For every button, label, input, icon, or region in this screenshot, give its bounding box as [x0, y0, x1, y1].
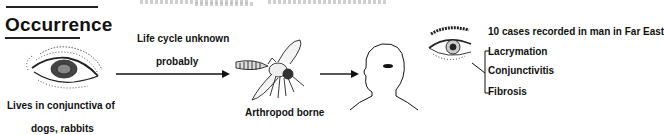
symptom-item: Fibrosis [488, 86, 527, 97]
clipped-previous-heading [0, 0, 663, 8]
section-title-underline [5, 37, 80, 39]
symptom-item: Conjunctivitis [488, 65, 554, 76]
fly-icon [234, 38, 314, 103]
reservoir-caption-line1: Lives in conjunctiva of [7, 100, 115, 111]
symptom-item: Lacrymation [488, 46, 547, 57]
arrow-right-icon [116, 69, 231, 79]
human-head-icon [346, 40, 426, 112]
vector-label: Arthropod borne [245, 107, 324, 118]
section-title: Occurrence [5, 14, 113, 36]
clipped-text-fragment [268, 0, 388, 4]
clipped-heading-underline [6, 6, 98, 8]
cases-text: 10 cases recorded in man in Far East [488, 26, 664, 37]
transmission-label-line1: Life cycle unknown [137, 33, 229, 44]
transmission-label-line2: probably [156, 56, 198, 67]
animal-eye-icon [18, 40, 113, 95]
reservoir-caption-line2: dogs, rabbits [31, 123, 94, 134]
clipped-text-fragment [195, 2, 255, 6]
